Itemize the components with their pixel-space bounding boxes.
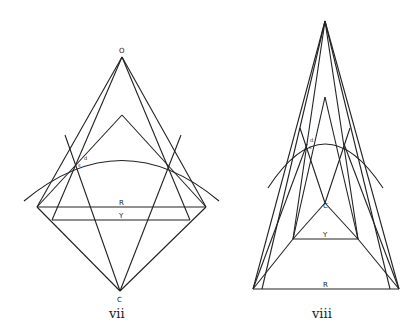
caption-viii: viii bbox=[311, 306, 332, 321]
label-o: O bbox=[119, 47, 125, 55]
label-c: C bbox=[117, 296, 122, 304]
label-d: d bbox=[310, 137, 313, 143]
label-r: R bbox=[119, 199, 124, 207]
geometric-construction-diagrams: O C R Y d s vii bbox=[0, 0, 420, 335]
figure-viii: C R Y d s viii bbox=[253, 21, 399, 321]
label-c: C bbox=[323, 202, 328, 210]
label-y: Y bbox=[118, 212, 124, 220]
label-y: Y bbox=[322, 231, 328, 239]
label-r: R bbox=[323, 281, 328, 289]
caption-vii: vii bbox=[108, 306, 125, 321]
label-d: d bbox=[84, 155, 87, 161]
label-s: s bbox=[78, 162, 81, 168]
figure-vii: O C R Y d s vii bbox=[24, 47, 219, 321]
label-s: s bbox=[309, 144, 312, 150]
